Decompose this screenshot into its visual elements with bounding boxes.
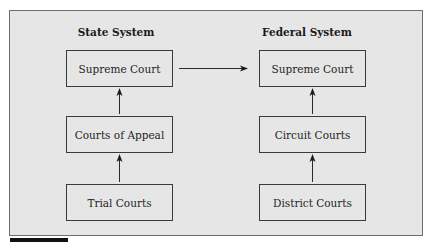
accent-bar (10, 238, 68, 242)
connector-layer (0, 0, 428, 244)
